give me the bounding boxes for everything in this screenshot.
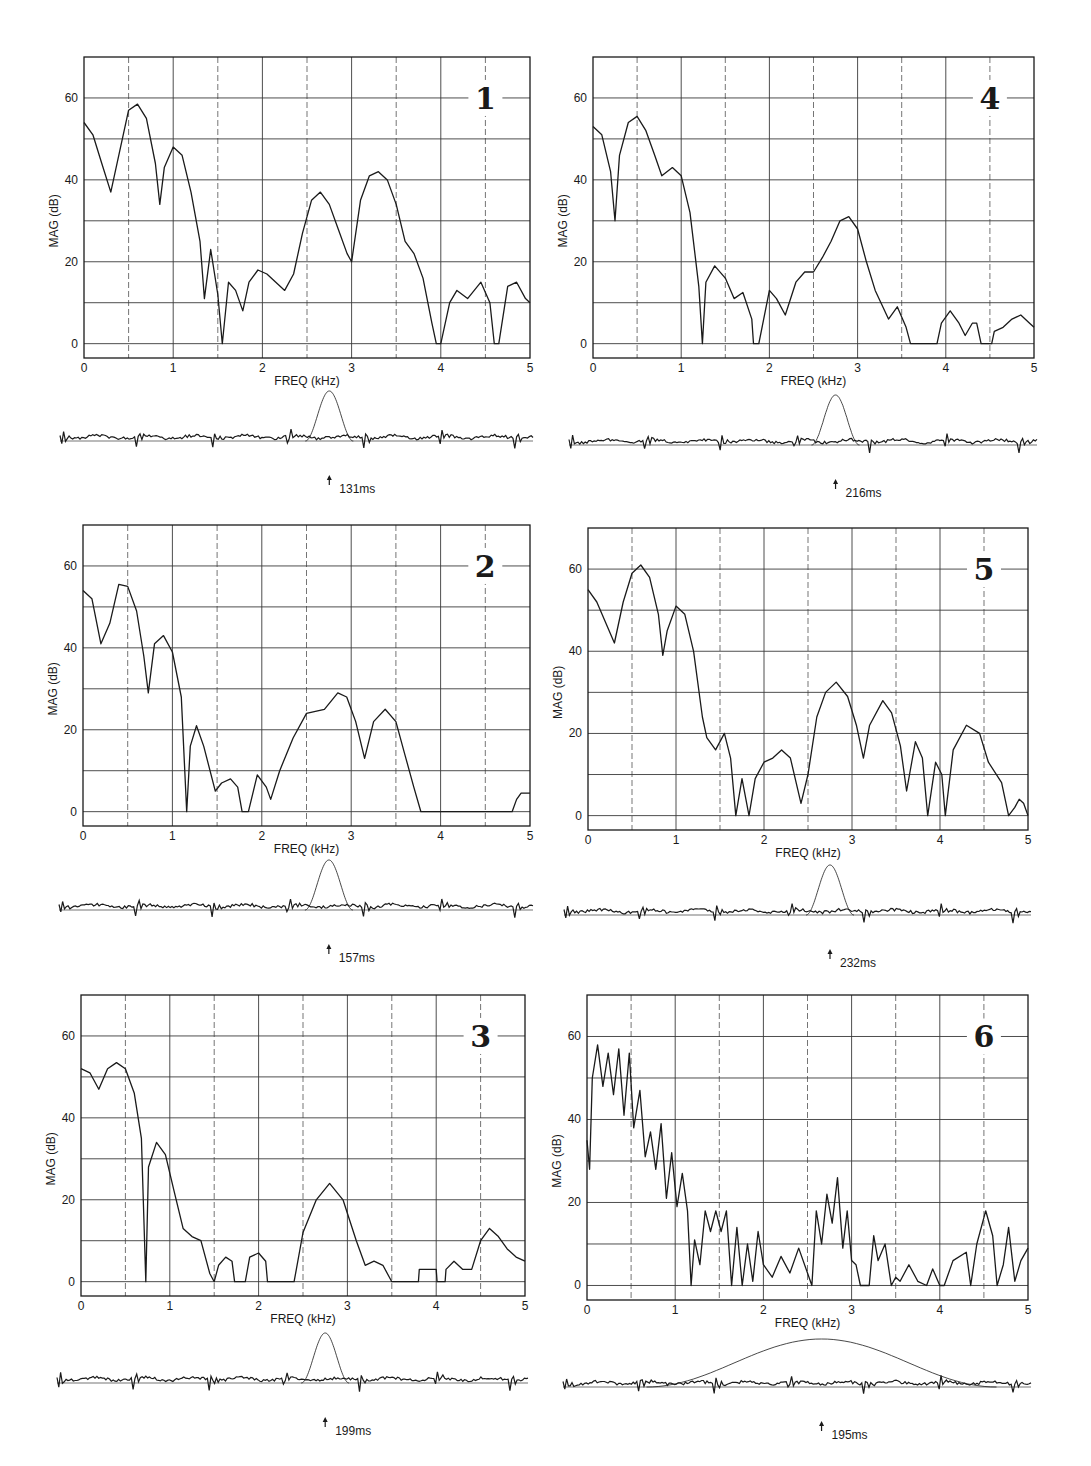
waveform-strip: 195ms <box>563 1339 1031 1442</box>
grid-lines <box>84 57 530 358</box>
panel-number: 1 <box>475 81 496 116</box>
y-tick-label: 60 <box>65 91 79 105</box>
waveform-trace <box>60 429 533 448</box>
x-axis-label: FREQ (kHz) <box>775 1316 840 1330</box>
grid-lines <box>588 528 1028 830</box>
y-tick-label: 40 <box>64 641 78 655</box>
x-tick-label: 2 <box>761 833 768 847</box>
x-tick-label: 1 <box>678 361 685 375</box>
y-tick-label: 20 <box>574 255 588 269</box>
x-tick-label: 1 <box>170 361 177 375</box>
x-tick-label: 1 <box>672 1303 679 1317</box>
x-tick-label: 2 <box>760 1303 767 1317</box>
x-tick-label: 5 <box>1031 361 1038 375</box>
waveform-trace <box>59 899 533 918</box>
y-axis-label: MAG (dB) <box>47 194 61 247</box>
y-tick-label: 20 <box>64 723 78 737</box>
time-label: 216ms <box>846 486 882 500</box>
x-tick-label: 1 <box>673 833 680 847</box>
analysis-window <box>647 1339 997 1387</box>
x-tick-label: 5 <box>527 361 534 375</box>
y-tick-label: 20 <box>568 1195 582 1209</box>
time-label: 131ms <box>339 482 375 496</box>
x-tick-label: 5 <box>527 829 534 843</box>
x-axis-label: FREQ (kHz) <box>781 374 846 388</box>
x-tick-label: 0 <box>590 361 597 375</box>
y-tick-label: 20 <box>569 726 583 740</box>
time-label: 199ms <box>335 1424 371 1438</box>
grid-lines <box>81 995 525 1296</box>
y-tick-label: 40 <box>62 1111 76 1125</box>
spectrum-panel-5: 0123450204060FREQ (kHz)MAG (dB)5232ms <box>551 528 1032 970</box>
time-label: 157ms <box>339 951 375 965</box>
time-label: 232ms <box>840 956 876 970</box>
waveform-trace <box>57 1372 528 1392</box>
analysis-window <box>301 1333 349 1383</box>
y-tick-label: 0 <box>575 809 582 823</box>
grid-lines <box>593 57 1034 358</box>
x-tick-label: 4 <box>936 1303 943 1317</box>
panel-number: 6 <box>973 1019 994 1054</box>
x-tick-label: 2 <box>258 829 265 843</box>
y-tick-label: 0 <box>574 1278 581 1292</box>
x-tick-label: 1 <box>166 1299 173 1313</box>
spectrum-panel-3: 0123450204060FREQ (kHz)MAG (dB)3199ms <box>44 995 529 1438</box>
y-tick-label: 40 <box>65 173 79 187</box>
panel-number: 3 <box>470 1019 491 1054</box>
analysis-window <box>812 395 860 445</box>
x-tick-label: 0 <box>81 361 88 375</box>
x-tick-label: 5 <box>522 1299 529 1313</box>
y-tick-label: 60 <box>64 559 78 573</box>
y-tick-label: 0 <box>71 337 78 351</box>
time-label: 195ms <box>832 1428 868 1442</box>
figure-canvas: 0123450204060FREQ (kHz)MAG (dB)1131ms012… <box>0 0 1091 1466</box>
y-tick-label: 40 <box>569 644 583 658</box>
x-tick-label: 0 <box>80 829 87 843</box>
y-tick-label: 0 <box>70 805 77 819</box>
waveform-trace <box>564 904 1031 924</box>
y-axis-label: MAG (dB) <box>551 666 565 719</box>
x-tick-label: 3 <box>848 1303 855 1317</box>
waveform-trace <box>563 1375 1031 1393</box>
x-axis-label: FREQ (kHz) <box>270 1312 335 1326</box>
x-tick-label: 4 <box>433 1299 440 1313</box>
analysis-window <box>806 865 854 915</box>
y-tick-label: 60 <box>568 1029 582 1043</box>
y-axis-label: MAG (dB) <box>550 1134 564 1187</box>
x-tick-label: 4 <box>437 829 444 843</box>
y-tick-label: 20 <box>65 255 79 269</box>
spectrum-panel-6: 0123450204060FREQ (kHz)MAG (dB)6195ms <box>550 995 1032 1442</box>
y-tick-label: 0 <box>68 1275 75 1289</box>
y-tick-label: 60 <box>62 1029 76 1043</box>
x-tick-label: 5 <box>1025 833 1032 847</box>
waveform-strip: 131ms <box>60 391 533 496</box>
y-tick-label: 20 <box>62 1193 76 1207</box>
y-axis-label: MAG (dB) <box>44 1132 58 1185</box>
spectrum-panel-1: 0123450204060FREQ (kHz)MAG (dB)1131ms <box>47 57 534 496</box>
spectra-figure: 0123450204060FREQ (kHz)MAG (dB)1131ms012… <box>0 0 1091 1466</box>
x-axis-label: FREQ (kHz) <box>274 374 339 388</box>
waveform-strip: 232ms <box>564 865 1031 970</box>
y-tick-label: 60 <box>574 91 588 105</box>
x-tick-label: 2 <box>766 361 773 375</box>
spectrum-panel-2: 0123450204060FREQ (kHz)MAG (dB)2157ms <box>46 525 534 965</box>
x-tick-label: 1 <box>169 829 176 843</box>
x-tick-label: 5 <box>1025 1303 1032 1317</box>
panel-number: 2 <box>475 549 496 584</box>
analysis-window <box>305 391 353 441</box>
x-tick-label: 0 <box>585 833 592 847</box>
x-tick-label: 4 <box>937 833 944 847</box>
y-tick-label: 0 <box>580 337 587 351</box>
y-tick-label: 40 <box>568 1112 582 1126</box>
panel-number: 5 <box>974 552 995 587</box>
x-axis-label: FREQ (kHz) <box>775 846 840 860</box>
panel-number: 4 <box>979 81 1000 116</box>
y-tick-label: 60 <box>569 562 583 576</box>
spectrum-panel-4: 0123450204060FREQ (kHz)MAG (dB)4216ms <box>556 57 1038 500</box>
x-tick-label: 3 <box>348 829 355 843</box>
x-tick-label: 2 <box>259 361 266 375</box>
waveform-strip: 216ms <box>569 395 1037 500</box>
x-tick-label: 3 <box>854 361 861 375</box>
x-tick-label: 4 <box>942 361 949 375</box>
analysis-window <box>305 860 353 910</box>
